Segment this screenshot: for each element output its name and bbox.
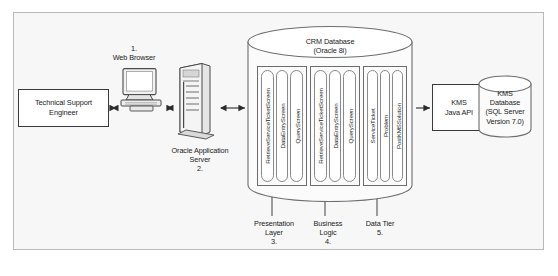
pill-retrieve-service-ticket-screen-1: RetrieveServiceTicketScreen bbox=[261, 70, 274, 182]
pill-retrieve-service-ticket-screen-2: RetrieveServiceTicketScreen bbox=[314, 70, 327, 182]
data-tier-label: Data Tier 5. bbox=[355, 219, 405, 237]
pill-service-ticket: ServiceTicket bbox=[367, 70, 378, 182]
pill-data-entry-screen-1: DataEntryScreen bbox=[276, 70, 289, 182]
server-tower-icon bbox=[176, 62, 216, 143]
crm-database-cylinder: CRM Database (Oracle 8i) RetrieveService… bbox=[247, 25, 413, 202]
pill-problem: Problem bbox=[380, 70, 391, 182]
diagram-canvas: Technical Support Engineer 1. Web Browse… bbox=[0, 0, 558, 276]
technical-support-engineer-box: Technical Support Engineer bbox=[18, 89, 109, 127]
oracle-application-server-label: Oracle Application Server 2. bbox=[152, 146, 248, 174]
pill-label: RetrieveServiceTicketScreen bbox=[264, 88, 271, 164]
desktop-computer-icon bbox=[119, 68, 164, 116]
presentation-tier-group: RetrieveServiceTicketScreen DataEntryScr… bbox=[257, 66, 307, 186]
pill-label: DataEntryScreen bbox=[279, 104, 286, 149]
pill-label: PostKMSSolution bbox=[394, 103, 401, 149]
pill-query-screen-1: QueryScreen bbox=[290, 70, 303, 182]
web-browser-label: 1. Web Browser bbox=[96, 44, 172, 62]
pill-post-kms-solution: PostKMSSolution bbox=[392, 70, 403, 182]
pill-label: DataEntryScreen bbox=[332, 104, 339, 149]
pill-data-entry-screen-2: DataEntryScreen bbox=[329, 70, 342, 182]
technical-support-engineer-label: Technical Support Engineer bbox=[35, 98, 92, 117]
pill-label: Problem bbox=[382, 115, 389, 137]
business-tier-group: RetrieveServiceTicketScreen DataEntryScr… bbox=[310, 66, 360, 186]
presentation-layer-label: Presentation Layer 3. bbox=[246, 219, 302, 247]
business-logic-label: Business Logic 4. bbox=[305, 219, 351, 247]
kms-java-api-label: KMS Java API bbox=[445, 98, 473, 116]
pill-label: RetrieveServiceTicketScreen bbox=[317, 88, 324, 164]
pill-query-screen-2: QueryScreen bbox=[343, 70, 356, 182]
pill-label: ServiceTicket bbox=[369, 109, 376, 144]
crm-database-title: CRM Database (Oracle 8i) bbox=[247, 37, 413, 55]
kms-database-label: KMS Database (SQL Server Version 7.0) bbox=[478, 89, 532, 126]
data-tier-group: ServiceTicket Problem PostKMSSolution bbox=[363, 66, 407, 186]
kms-database-cylinder: KMS Database (SQL Server Version 7.0) bbox=[478, 75, 532, 138]
pill-label: QueryScreen bbox=[346, 109, 353, 144]
pill-label: QueryScreen bbox=[293, 109, 300, 144]
